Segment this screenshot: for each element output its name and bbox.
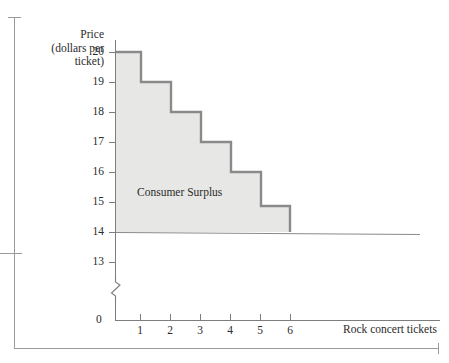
y-axis-line <box>115 40 116 278</box>
consumer-surplus-figure: Consumer Surplus 20 19 18 17 16 <box>0 0 449 363</box>
y-tick-label-17: 17 <box>78 136 104 147</box>
y-tick-16 <box>109 172 116 173</box>
y-tick-label-15: 15 <box>78 196 104 207</box>
y-tick-label-14: 14 <box>78 226 104 237</box>
market-price-line <box>116 233 420 235</box>
y-axis-title-line-2: (dollars per <box>18 42 104 56</box>
origin-label: 0 <box>96 313 102 325</box>
x-tick-label-2: 2 <box>158 324 182 336</box>
x-tick-2 <box>170 314 171 321</box>
y-axis-title-line-1: Price <box>18 28 104 42</box>
x-tick-5 <box>260 314 261 321</box>
plot-area: Consumer Surplus 20 19 18 17 16 <box>0 0 449 363</box>
y-tick-label-19: 19 <box>78 76 104 87</box>
x-tick-3 <box>200 314 201 321</box>
x-tick-label-4: 4 <box>218 324 242 336</box>
y-axis-title-line-3: ticket) <box>18 55 104 69</box>
x-tick-6 <box>290 314 291 321</box>
y-tick-13 <box>109 262 116 263</box>
y-tick-18 <box>109 112 116 113</box>
y-tick-label-13: 13 <box>78 256 104 267</box>
y-axis-line-lower <box>115 300 116 321</box>
x-tick-label-3: 3 <box>188 324 212 336</box>
y-tick-20 <box>109 52 116 53</box>
y-tick-19 <box>109 82 116 83</box>
y-tick-label-16: 16 <box>78 166 104 177</box>
y-tick-15 <box>109 202 116 203</box>
x-tick-label-1: 1 <box>128 324 152 336</box>
x-tick-4 <box>230 314 231 321</box>
x-tick-label-6: 6 <box>278 324 302 336</box>
x-tick-1 <box>140 314 141 321</box>
x-axis-line <box>115 320 440 321</box>
y-tick-label-18: 18 <box>78 106 104 117</box>
y-tick-14 <box>109 232 116 233</box>
y-axis-title: Price (dollars per ticket) <box>18 28 104 69</box>
x-axis-title: Rock concert tickets <box>343 323 437 335</box>
consumer-surplus-label: Consumer Surplus <box>137 186 222 198</box>
axis-break-icon <box>110 276 124 302</box>
x-tick-label-5: 5 <box>248 324 272 336</box>
y-tick-17 <box>109 142 116 143</box>
